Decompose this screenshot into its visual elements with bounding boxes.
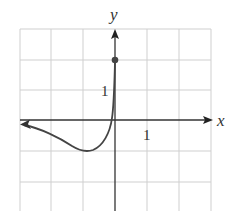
graph: y x 1 1 <box>0 0 235 211</box>
x-axis-label: x <box>216 111 225 130</box>
closed-endpoint-dot <box>112 57 119 64</box>
y-axis-label: y <box>108 5 118 24</box>
x-tick-label-1: 1 <box>143 127 151 143</box>
function-curve <box>24 62 115 151</box>
y-tick-label-1: 1 <box>101 83 109 99</box>
x-axis <box>20 116 213 124</box>
curve-left-arrow-icon <box>20 120 31 130</box>
